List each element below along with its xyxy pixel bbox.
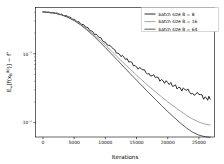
x-tick-label: 0 <box>42 140 45 145</box>
ylabel-tail: )] − f <box>6 53 12 69</box>
y-tick-label: 10⁻¹ <box>23 51 32 57</box>
y-axis-label-text: Eω[f(xB(k))] − f* <box>6 52 13 92</box>
legend-label-1: batch size B = 8 <box>159 12 195 17</box>
x-axis-ticks: 0500010000150002000025000 <box>42 137 207 145</box>
x-tick-label: 20000 <box>161 140 175 145</box>
y-tick-label: 10⁻² <box>23 120 32 126</box>
legend-label-3: batch size B = 64 <box>159 27 198 32</box>
y-axis-ticks: 10⁻¹10⁻² <box>23 12 36 125</box>
x-tick-label: 5000 <box>69 140 80 145</box>
ylabel-star: * <box>6 52 10 54</box>
x-tick-label: 15000 <box>130 140 144 145</box>
legend[interactable]: batch size B = 8batch size B = 16batch s… <box>142 8 219 32</box>
legend-label-2: batch size B = 16 <box>159 19 198 24</box>
y-axis-label: Eω[f(xB(k))] − f* <box>6 52 13 92</box>
x-tick-label: 10000 <box>98 140 112 145</box>
figure-container: 0500010000150002000025000 10⁻¹10⁻² Itera… <box>0 0 224 164</box>
convergence-chart: 0500010000150002000025000 10⁻¹10⁻² Itera… <box>0 0 224 164</box>
x-tick-label: 25000 <box>192 140 206 145</box>
x-axis-label: Iterations <box>112 154 139 160</box>
